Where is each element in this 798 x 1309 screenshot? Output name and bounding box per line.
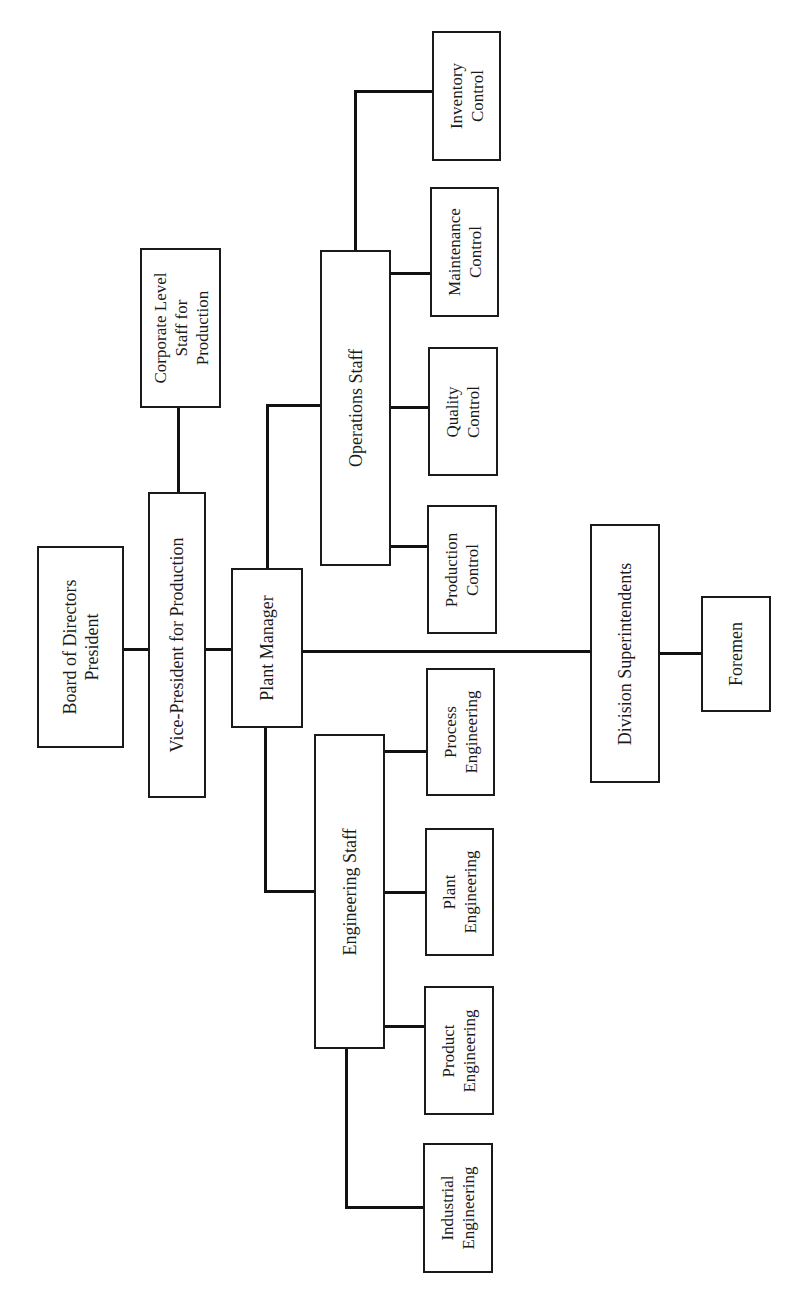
node-label: Process Engineering xyxy=(440,690,482,773)
connector-engineering-product xyxy=(384,1025,425,1028)
connector-board-vp xyxy=(123,648,150,651)
node-label: Board of Directors President xyxy=(59,580,103,715)
node-label: Division Superintendents xyxy=(614,562,636,745)
connector-plant-manager-engineering-h xyxy=(264,890,315,893)
node-engineering-staff: Engineering Staff xyxy=(314,734,385,1049)
connector-plant-manager-engineering xyxy=(264,727,267,892)
connector-operations-production xyxy=(389,545,428,548)
node-plant-manager: Plant Manager xyxy=(231,568,303,728)
node-label: Engineering Staff xyxy=(339,828,361,955)
node-production-control: Production Control xyxy=(427,505,497,634)
node-inventory-control: Inventory Control xyxy=(432,31,501,161)
node-label: Quality Control xyxy=(442,386,484,438)
connector-engineering-industrial-v xyxy=(345,1048,348,1209)
node-maintenance-control: Maintenance Control xyxy=(430,187,499,317)
node-label: Corporate Level Staff for Production xyxy=(149,273,212,384)
node-board-of-directors: Board of Directors President xyxy=(37,546,124,748)
node-label: Industrial Engineering xyxy=(437,1166,479,1249)
node-label: Plant Manager xyxy=(256,595,278,700)
connector-division-foremen xyxy=(659,652,702,655)
connector-operations-quality xyxy=(390,406,429,409)
node-label: Vice-President for Production xyxy=(166,538,188,753)
connector-engineering-industrial-h xyxy=(345,1206,424,1209)
node-foremen: Foremen xyxy=(701,596,771,712)
connector-engineering-plant xyxy=(384,891,426,894)
node-label: Product Engineering xyxy=(438,1009,480,1092)
node-product-engineering: Product Engineering xyxy=(424,986,494,1115)
node-label: Production Control xyxy=(441,532,483,607)
node-label: Maintenance Control xyxy=(444,208,486,296)
node-plant-engineering: Plant Engineering xyxy=(425,828,494,956)
node-label: Foremen xyxy=(725,622,747,686)
node-label: Operations Staff xyxy=(345,349,367,467)
node-operations-staff: Operations Staff xyxy=(320,250,391,566)
node-process-engineering: Process Engineering xyxy=(426,668,495,796)
node-quality-control: Quality Control xyxy=(428,347,498,476)
connector-engineering-process xyxy=(384,750,427,753)
connector-plant-manager-division xyxy=(302,650,591,653)
node-vice-president: Vice-President for Production xyxy=(148,492,206,798)
connector-operations-inventory-v xyxy=(354,90,357,251)
node-label: Plant Engineering xyxy=(439,850,481,933)
node-industrial-engineering: Industrial Engineering xyxy=(423,1143,493,1273)
connector-plant-manager-operations xyxy=(266,404,269,569)
connector-operations-inventory-h xyxy=(354,90,433,93)
connector-plant-manager-operations-h xyxy=(266,404,321,407)
node-division-superintendents: Division Superintendents xyxy=(590,524,660,783)
node-corporate-staff: Corporate Level Staff for Production xyxy=(140,248,221,408)
connector-vp-corporate xyxy=(177,407,180,493)
connector-operations-maintenance xyxy=(390,272,431,275)
connector-vp-plant-manager xyxy=(205,648,233,651)
node-label: Inventory Control xyxy=(446,63,488,129)
